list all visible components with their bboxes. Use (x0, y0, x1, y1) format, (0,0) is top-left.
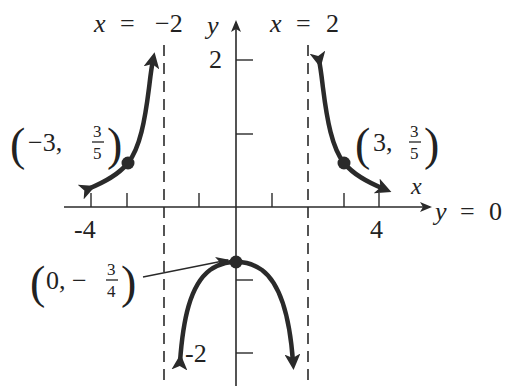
point-neg3 (122, 157, 135, 170)
point-label-0: ( 0, − 3 4 ) (30, 257, 136, 308)
svg-text:3: 3 (93, 122, 102, 141)
x-axis-label: x (410, 173, 422, 199)
svg-text:0: 0 (489, 197, 502, 226)
svg-text:4: 4 (107, 282, 116, 301)
svg-text:=: = (296, 9, 311, 38)
y-tick-label-2: 2 (209, 45, 222, 74)
svg-text:3: 3 (410, 122, 419, 141)
y-axis-label: y (204, 11, 219, 40)
y-tick-label-neg2: -2 (185, 339, 207, 368)
svg-text:3,: 3, (373, 128, 393, 157)
svg-text:): ) (107, 119, 122, 170)
svg-text:3: 3 (107, 260, 116, 279)
point-0 (230, 256, 243, 269)
svg-text:): ) (121, 257, 136, 308)
svg-text:x: x (93, 9, 106, 38)
svg-text:−2: −2 (155, 9, 183, 38)
graph-canvas: -4 4 2 -2 y x x = −2 x = 2 y = 0 ( −3, 3… (0, 0, 514, 386)
svg-text:): ) (424, 119, 439, 170)
svg-text:−3,: −3, (28, 128, 62, 157)
asymptote-label-y-0: y = 0 (432, 197, 502, 226)
svg-text:2: 2 (326, 9, 339, 38)
svg-text:5: 5 (93, 144, 102, 163)
svg-text:0, −: 0, − (46, 266, 87, 295)
svg-text:=: = (460, 197, 475, 226)
x-tick-label-4: 4 (370, 215, 383, 244)
svg-text:(: ( (355, 119, 370, 170)
point-3 (338, 157, 351, 170)
asymptote-label-x-neg2: x = −2 (93, 9, 183, 38)
svg-text:=: = (120, 9, 135, 38)
svg-text:(: ( (30, 257, 45, 308)
svg-text:5: 5 (410, 144, 419, 163)
x-tick-label-neg4: -4 (74, 215, 96, 244)
point-label-neg3: ( −3, 3 5 ) (10, 119, 122, 170)
point-label-3: ( 3, 3 5 ) (355, 119, 439, 170)
right-branch-curve (319, 60, 384, 189)
svg-text:x: x (269, 9, 282, 38)
asymptote-label-x-2: x = 2 (269, 9, 339, 38)
svg-text:y: y (432, 197, 447, 226)
svg-text:(: ( (10, 119, 25, 170)
x-ticks (91, 193, 379, 207)
